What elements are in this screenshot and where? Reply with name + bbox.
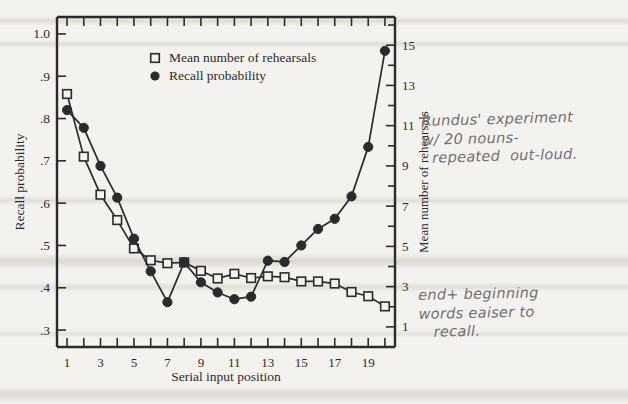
data-point-filled-circle	[230, 295, 239, 304]
y-tick-label-left: .5	[40, 238, 50, 253]
x-tick-label: 15	[295, 355, 308, 370]
x-tick-label: 19	[362, 355, 375, 370]
data-point-open-square	[63, 90, 72, 99]
data-point-filled-circle	[62, 105, 71, 114]
x-tick-label: 11	[228, 355, 241, 370]
y-tick-label-left: 1.0	[33, 26, 50, 41]
y-axis-left-ticks	[57, 34, 66, 330]
data-point-filled-circle	[146, 267, 155, 276]
data-point-filled-circle	[313, 224, 322, 233]
data-point-open-square	[381, 302, 390, 311]
y-tick-label-left: .4	[40, 280, 50, 295]
data-point-open-square	[146, 256, 155, 265]
x-tick-label: 3	[97, 355, 104, 370]
x-axis-top-ticks	[67, 17, 385, 26]
x-tick-label: 5	[131, 355, 138, 370]
data-point-filled-circle	[364, 142, 373, 151]
y-axis-right-ticks	[386, 25, 395, 327]
data-point-open-square	[280, 273, 289, 282]
data-point-filled-circle	[196, 278, 205, 287]
y-tick-label-right: 3	[402, 279, 409, 294]
y-tick-label-right: 13	[402, 78, 415, 93]
data-point-filled-circle	[347, 192, 356, 201]
serial-position-chart: 135791113151719 .3.4.5.6.7.8.91.0 135791…	[0, 0, 628, 404]
data-point-open-square	[330, 279, 339, 288]
data-point-filled-circle	[330, 214, 339, 223]
x-tick-label: 17	[328, 355, 342, 370]
data-point-filled-circle	[180, 258, 189, 267]
data-point-filled-circle	[246, 292, 255, 301]
data-point-open-square	[79, 152, 88, 161]
y-axis-left-label: Recall probability	[12, 133, 27, 230]
y-tick-label-right: 7	[402, 199, 409, 214]
data-point-filled-circle	[96, 161, 105, 170]
y-tick-label-right: 1	[402, 319, 409, 334]
data-point-open-square	[113, 216, 122, 225]
data-point-filled-circle	[79, 123, 88, 132]
axes-frame	[57, 17, 395, 347]
legend-marker-filled-circle	[150, 71, 159, 80]
x-axis-tick-labels: 135791113151719	[64, 355, 375, 370]
series-recall-probability	[62, 46, 389, 307]
series-line	[67, 51, 385, 302]
series-mean-number-of-rehearsals	[63, 90, 390, 311]
y-tick-label-right: 9	[402, 158, 409, 173]
data-point-filled-circle	[113, 193, 122, 202]
handwritten-note-primacy-recency: end+ beginning words eaiser to recall.	[418, 283, 540, 341]
data-point-filled-circle	[280, 257, 289, 266]
x-tick-label: 13	[261, 355, 274, 370]
data-point-open-square	[163, 259, 172, 268]
y-tick-label-right: 11	[402, 118, 415, 133]
data-point-filled-circle	[129, 234, 138, 243]
data-point-open-square	[96, 190, 105, 199]
y-tick-label-left: .7	[40, 153, 50, 168]
legend-label: Recall probability	[169, 68, 266, 83]
y-tick-label-left: .8	[40, 111, 50, 126]
y-tick-label-left: .6	[40, 196, 50, 211]
x-tick-label: 9	[198, 355, 205, 370]
y-tick-label-right: 5	[402, 239, 409, 254]
y-tick-label-left: .3	[40, 323, 50, 338]
data-point-open-square	[347, 288, 356, 297]
chart-legend: Mean number of rehearsalsRecall probabil…	[150, 50, 316, 83]
data-point-filled-circle	[263, 256, 272, 265]
x-tick-label: 1	[64, 355, 71, 370]
data-point-open-square	[264, 272, 273, 281]
data-point-open-square	[197, 267, 206, 276]
data-point-open-square	[247, 274, 256, 283]
x-axis-label: Serial input position	[171, 369, 281, 384]
data-point-filled-circle	[297, 241, 306, 250]
legend-label: Mean number of rehearsals	[169, 50, 316, 65]
data-point-open-square	[230, 270, 239, 279]
y-axis-right-tick-labels: 13579111315	[402, 38, 415, 335]
data-point-open-square	[314, 277, 323, 286]
y-tick-label-right: 15	[402, 38, 415, 53]
x-axis-bottom-ticks	[67, 338, 385, 347]
data-point-filled-circle	[213, 288, 222, 297]
legend-marker-open-square	[151, 54, 160, 63]
x-tick-label: 7	[164, 355, 171, 370]
data-point-filled-circle	[380, 46, 389, 55]
data-point-filled-circle	[163, 298, 172, 307]
data-point-open-square	[297, 277, 306, 286]
y-tick-label-left: .9	[40, 69, 50, 84]
data-point-open-square	[364, 292, 373, 301]
data-point-open-square	[213, 274, 222, 283]
handwritten-note-rundus-experiment: Rundus' experiment w/ 20 nouns- repeated…	[421, 108, 578, 168]
y-axis-left-tick-labels: .3.4.5.6.7.8.91.0	[33, 26, 50, 337]
